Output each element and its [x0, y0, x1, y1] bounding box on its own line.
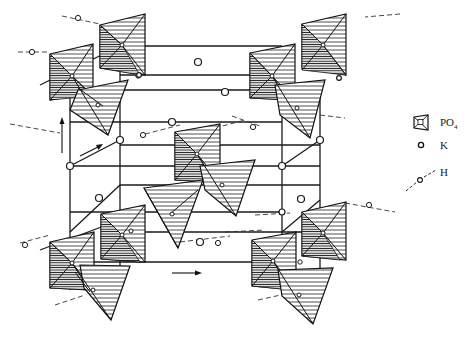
crystal-structure-diagram: PO4 K H: [0, 0, 467, 339]
po4-tetrahedron: [101, 205, 145, 262]
po4-tetrahedron: [144, 180, 203, 248]
legend-label-po4: PO4: [440, 116, 458, 131]
po4-tetrahedron: [100, 14, 145, 77]
legend-item-po4: PO4: [414, 115, 458, 131]
legend-item-k: K: [418, 139, 448, 151]
dashed-line-circle-icon: [406, 170, 436, 191]
po4-tetrahedron: [302, 202, 346, 260]
legend-item-h: H: [406, 166, 448, 191]
po4-tetrahedron: [302, 14, 346, 80]
legend-label-k: K: [440, 139, 448, 151]
a-axis-arrow: [172, 271, 202, 276]
tetrahedron-icon: [414, 115, 428, 130]
legend: PO4 K H: [406, 115, 458, 191]
open-circle-icon: [418, 142, 423, 147]
legend-label-h: H: [440, 166, 448, 178]
c-axis-arrow: [60, 117, 65, 153]
